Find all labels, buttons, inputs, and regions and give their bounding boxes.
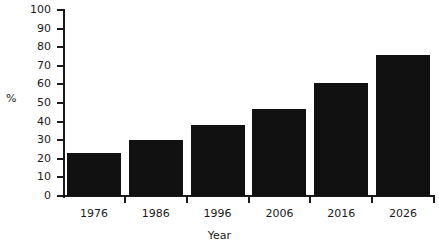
y-axis-tick <box>57 28 64 30</box>
x-axis-tick-label: 2006 <box>249 208 311 220</box>
x-axis-tick <box>124 196 126 203</box>
y-axis-tick-label: 30 <box>0 134 51 145</box>
bar-chart: % 0102030405060708090100 197619861996200… <box>0 0 439 249</box>
y-axis-tick-label: 20 <box>0 153 51 164</box>
x-axis-tick <box>186 196 188 203</box>
y-axis-tick <box>57 46 64 48</box>
x-axis-tick-label: 1996 <box>187 208 249 220</box>
y-axis-tick-label: 90 <box>0 23 51 34</box>
y-axis-tick <box>57 195 64 197</box>
y-axis-tick <box>57 83 64 85</box>
y-axis-tick <box>57 65 64 67</box>
x-axis-tick-label: 2026 <box>372 208 434 220</box>
x-axis-tick-label: 1976 <box>63 208 125 220</box>
y-axis-tick <box>57 158 64 160</box>
x-axis-tick-label: 1986 <box>125 208 187 220</box>
x-axis-tick <box>248 196 250 203</box>
x-axis-title: Year <box>0 230 439 241</box>
bar <box>376 55 430 196</box>
y-axis-tick-label: 50 <box>0 97 51 108</box>
y-axis-tick-label: 10 <box>0 171 51 182</box>
y-axis-tick <box>57 139 64 141</box>
y-axis-tick-label: 70 <box>0 60 51 71</box>
bar <box>252 109 306 196</box>
x-axis-tick <box>433 196 435 203</box>
y-axis-tick <box>57 121 64 123</box>
x-axis-tick <box>371 196 373 203</box>
y-axis-tick-label: 100 <box>0 4 51 15</box>
y-axis-tick <box>57 102 64 104</box>
y-axis-tick-label: 40 <box>0 116 51 127</box>
bars-layer <box>65 10 435 196</box>
x-axis-tick <box>309 196 311 203</box>
bar <box>191 125 245 196</box>
y-axis-tick-label: 60 <box>0 78 51 89</box>
y-axis-tick <box>57 176 64 178</box>
bar <box>129 140 183 196</box>
y-axis-tick-label: 80 <box>0 41 51 52</box>
bar <box>314 83 368 196</box>
y-axis-tick-label: 0 <box>0 190 51 201</box>
x-axis-tick-label: 2016 <box>310 208 372 220</box>
bar <box>67 153 121 196</box>
y-axis-tick <box>57 9 64 11</box>
